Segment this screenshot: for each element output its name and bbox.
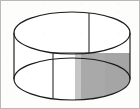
figure-frame — [0, 0, 140, 109]
cylinder-diagram — [1, 1, 140, 109]
